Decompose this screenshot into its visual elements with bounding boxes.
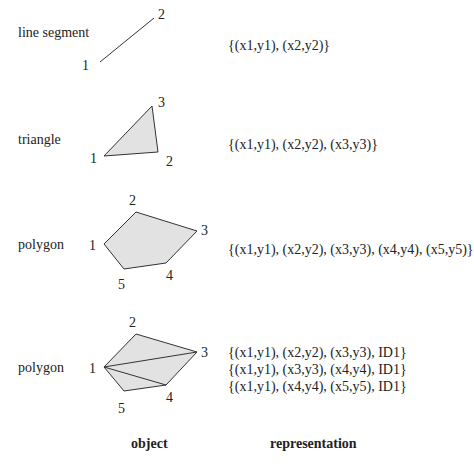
- vertex-label: 5: [118, 401, 125, 416]
- representation-triangle: {(x1,y1), (x2,y2), (x3,y3)}: [228, 136, 378, 153]
- vertex-label: 4: [166, 390, 173, 405]
- line-segment-shape: 1 2: [82, 7, 165, 73]
- triangle-shape: 1 2 3: [90, 95, 173, 169]
- vertex-label: 1: [82, 58, 89, 73]
- representation-line-segment: {(x1,y1), (x2,y2)}: [228, 37, 330, 54]
- vertex-label: 3: [201, 223, 208, 238]
- header-object: object: [131, 436, 168, 452]
- representation-triangulated-3: {(x1,y1), (x4,y4), (x5,y5), ID1}: [228, 378, 407, 395]
- vertex-label: 1: [90, 151, 97, 166]
- vertex-label: 2: [129, 193, 136, 208]
- vertex-label: 1: [89, 238, 96, 253]
- vertex-label: 4: [166, 268, 173, 283]
- header-representation: representation: [270, 436, 357, 452]
- representation-polygon: {(x1,y1), (x2,y2), (x3,y3), (x4,y4), (x5…: [228, 241, 474, 258]
- vertex-label: 2: [158, 7, 165, 22]
- representation-triangulated-1: {(x1,y1), (x2,y2), (x3,y3), ID1}: [228, 344, 407, 361]
- polygon-shape: 1 2 3 4 5: [89, 193, 208, 292]
- vertex-label: 3: [158, 95, 165, 110]
- vertex-label: 5: [118, 277, 125, 292]
- representation-triangulated-2: {(x1,y1), (x3,y3), (x4,y4), ID1}: [228, 361, 407, 378]
- vertex-label: 3: [201, 345, 208, 360]
- vertex-label: 2: [129, 315, 136, 330]
- triangulated-polygon-shape: 1 2 3 4 5: [89, 315, 208, 416]
- vertex-label: 2: [166, 154, 173, 169]
- vertex-label: 1: [89, 361, 96, 376]
